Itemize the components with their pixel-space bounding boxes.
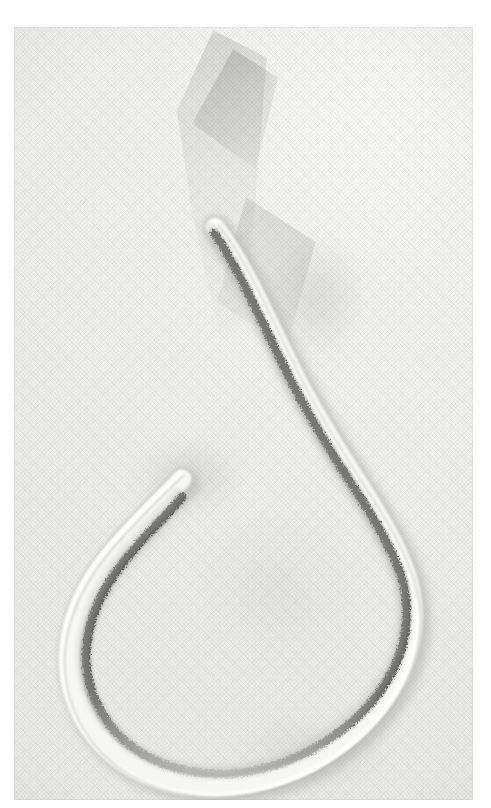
worm-specimen: [14, 27, 473, 800]
screenshot-root: [0, 0, 491, 808]
body-inner-shading: [83, 231, 404, 772]
specimen-photograph: [14, 27, 473, 800]
